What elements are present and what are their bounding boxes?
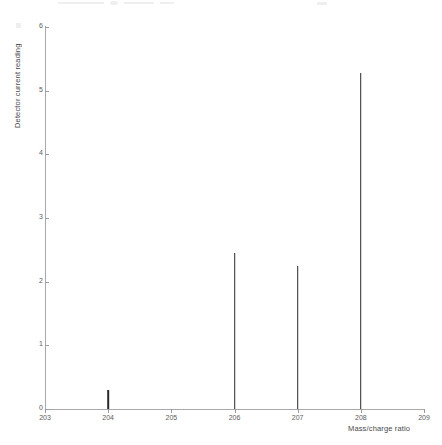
y-tick: 1 — [45, 345, 49, 346]
x-tick-label: 206 — [229, 414, 241, 421]
y-tick-label: 6 — [39, 22, 43, 29]
peak-line — [234, 253, 236, 409]
scan-artifact — [160, 2, 174, 4]
x-tick — [361, 409, 362, 413]
x-tick-label: 208 — [355, 414, 367, 421]
mass-spectrum-chart: 0123456 203204205206207208209 Detector c… — [0, 0, 442, 445]
y-tick: 4 — [45, 154, 49, 155]
scan-artifact — [58, 2, 104, 4]
x-tick — [424, 409, 425, 413]
peak-line — [107, 390, 109, 409]
scan-artifact — [317, 2, 327, 5]
y-tick: 3 — [45, 218, 49, 219]
y-tick-label: 1 — [39, 340, 43, 347]
x-tick — [298, 409, 299, 413]
peak-line — [297, 266, 299, 409]
scan-artifact — [124, 2, 154, 4]
y-tick-label: 4 — [39, 149, 43, 156]
x-tick-label: 203 — [39, 414, 51, 421]
x-axis-title: Mass/charge ratio — [348, 425, 410, 433]
peak-line — [360, 73, 362, 409]
x-tick — [235, 409, 236, 413]
x-tick — [108, 409, 109, 413]
y-tick-label: 5 — [39, 86, 43, 93]
x-tick — [45, 409, 46, 413]
y-tick: 6 — [45, 27, 49, 28]
x-tick — [171, 409, 172, 413]
x-tick-label: 204 — [102, 414, 114, 421]
y-tick-label: 0 — [39, 404, 43, 411]
x-tick-label: 205 — [165, 414, 177, 421]
y-tick: 5 — [45, 91, 49, 92]
y-axis-title: Detector current reading — [14, 28, 26, 128]
scan-artifact — [110, 1, 118, 5]
y-tick: 2 — [45, 282, 49, 283]
y-tick-label: 2 — [39, 277, 43, 284]
x-tick-label: 207 — [292, 414, 304, 421]
x-tick-label: 209 — [418, 414, 430, 421]
y-tick-label: 3 — [39, 213, 43, 220]
